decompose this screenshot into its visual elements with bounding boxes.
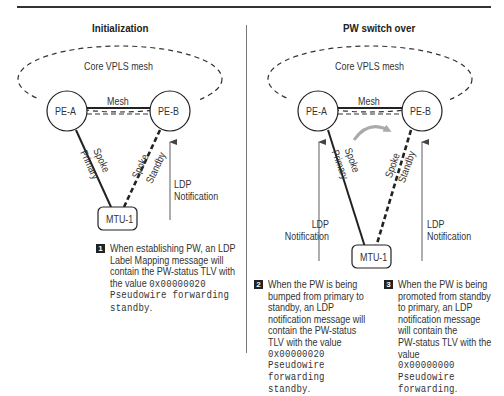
note-text: the value	[110, 277, 149, 289]
switch-curve-arrow	[354, 127, 388, 140]
status-name: forwarding	[398, 383, 455, 395]
ldp-label-line1: LDP	[427, 218, 444, 230]
mtu-1-label: MTU-1	[360, 251, 387, 263]
spoke-standby-line	[376, 130, 411, 247]
ldp-label-line2: Notification	[285, 230, 329, 242]
ldp-label-line2: Notification	[174, 190, 218, 202]
note-line: When establishing PW, an LDP	[110, 243, 227, 255]
step-badge-3: 3	[384, 280, 393, 289]
status-name: Pseudowire	[268, 360, 359, 372]
status-name: standby	[110, 302, 150, 314]
note-2: 2 When the PW is being bumped from prima…	[254, 279, 374, 396]
core-vpls-label: Core VPLS mesh	[335, 60, 404, 72]
ldp-label-line1: LDP	[312, 218, 329, 230]
note-line: When the PW is being	[398, 279, 489, 291]
status-name: forwarding	[268, 372, 359, 384]
panel-title-pw-switch-over: PW switch over	[343, 22, 415, 34]
note-line: When the PW is being	[268, 279, 359, 291]
ldp-notification-label-left: LDP Notification	[276, 218, 329, 242]
status-code: 0x00000000	[398, 360, 489, 372]
core-vpls-label: Core VPLS mesh	[84, 60, 153, 72]
note-3: 3 When the PW is being promoted from sta…	[384, 279, 504, 396]
period: .	[455, 382, 458, 394]
note-1: 1 When establishing PW, an LDP Label Map…	[96, 243, 246, 315]
mesh-label: Mesh	[358, 95, 380, 107]
panel-title-initialization: Initialization	[92, 22, 148, 34]
period: .	[150, 301, 153, 313]
period: .	[308, 382, 311, 394]
mtu-1-label: MTU-1	[106, 213, 133, 225]
note-line: TLV with the value	[268, 337, 359, 349]
ldp-label-line2: Notification	[427, 230, 471, 242]
panel-initialization	[18, 46, 222, 230]
step-badge-2: 2	[254, 280, 263, 289]
status-code: 0x00000020	[149, 278, 206, 290]
ldp-notification-label-right: LDP Notification	[427, 218, 471, 242]
status-name: Pseudowire	[398, 372, 489, 384]
status-name: standby	[268, 383, 308, 395]
mesh-label: Mesh	[107, 95, 129, 107]
ldp-label-line1: LDP	[174, 178, 191, 190]
ldp-notification-label: LDP Notification	[174, 178, 218, 202]
pe-b-label: PE-B	[158, 105, 179, 117]
status-name: Pseudowire forwarding	[110, 290, 227, 302]
step-badge-1: 1	[96, 244, 105, 253]
pe-a-label: PE-A	[55, 105, 76, 117]
note-line: PW-status TLV with the	[398, 337, 489, 349]
pe-b-label: PE-B	[410, 105, 431, 117]
pe-a-label: PE-A	[306, 105, 327, 117]
